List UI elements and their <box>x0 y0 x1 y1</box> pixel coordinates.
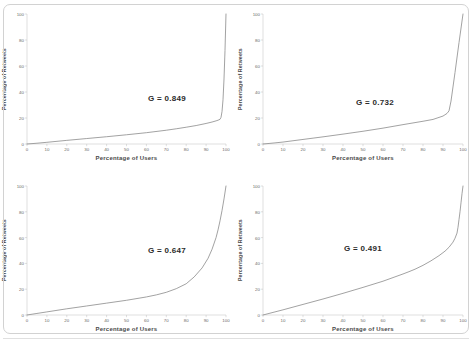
y-tick-label: 80 <box>244 209 260 214</box>
x-tick-label: 10 <box>44 147 49 152</box>
gini-annotation: G = 0.491 <box>344 244 382 253</box>
plot-area-bottom-left <box>0 172 236 343</box>
y-tick-label: 20 <box>244 116 260 121</box>
figure-bottom-rule <box>3 338 469 339</box>
x-tick-label: 70 <box>401 318 406 323</box>
y-axis-label: Percentage of Retweets <box>237 192 243 309</box>
x-tick-label: 100 <box>459 147 466 152</box>
x-tick-label: 90 <box>204 147 209 152</box>
x-axis-label: Percentage of Users <box>27 155 226 161</box>
x-axis-label: Percentage of Users <box>27 326 226 332</box>
x-tick-label: 30 <box>84 147 89 152</box>
x-tick-label: 40 <box>104 318 109 323</box>
gini-annotation: G = 0.647 <box>148 246 186 255</box>
y-tick-label: 40 <box>8 261 24 266</box>
panel-bottom-left: Percentage of Retweets Percentage of Use… <box>0 172 236 343</box>
x-tick-label: 80 <box>421 147 426 152</box>
y-axis-label: Percentage of Retweets <box>1 192 7 309</box>
x-tick-label: 70 <box>164 318 169 323</box>
panel-top-left: Percentage of Retweets Percentage of Use… <box>0 0 236 172</box>
x-tick-label: 10 <box>281 147 286 152</box>
plot-area-top-right <box>236 0 473 172</box>
x-tick-label: 30 <box>321 147 326 152</box>
y-tick-label: 0 <box>8 313 24 318</box>
x-tick-label: 60 <box>144 318 149 323</box>
x-tick-label: 60 <box>144 147 149 152</box>
x-tick-label: 90 <box>441 318 446 323</box>
x-tick-label: 10 <box>44 318 49 323</box>
x-tick-label: 100 <box>222 147 229 152</box>
x-tick-label: 90 <box>204 318 209 323</box>
lorenz-curve-figure: Percentage of Retweets Percentage of Use… <box>0 0 473 343</box>
y-tick-label: 40 <box>244 90 260 95</box>
plot-area-top-left <box>0 0 236 172</box>
y-tick-label: 60 <box>8 64 24 69</box>
x-tick-label: 50 <box>124 147 129 152</box>
x-tick-label: 0 <box>26 147 28 152</box>
x-tick-label: 50 <box>361 318 366 323</box>
y-tick-label: 20 <box>8 116 24 121</box>
x-tick-label: 90 <box>441 147 446 152</box>
panel-bottom-right: Percentage of Retweets Percentage of Use… <box>236 172 473 343</box>
x-tick-label: 40 <box>341 318 346 323</box>
y-tick-label: 40 <box>8 90 24 95</box>
y-tick-label: 100 <box>8 184 24 189</box>
x-axis-label: Percentage of Users <box>263 326 463 332</box>
y-tick-label: 60 <box>8 235 24 240</box>
x-tick-label: 0 <box>262 318 264 323</box>
x-tick-label: 20 <box>64 147 69 152</box>
x-tick-label: 70 <box>164 147 169 152</box>
y-tick-label: 0 <box>244 313 260 318</box>
x-tick-label: 40 <box>104 147 109 152</box>
plot-area-bottom-right <box>236 172 473 343</box>
y-tick-label: 0 <box>244 142 260 147</box>
y-tick-label: 20 <box>244 287 260 292</box>
x-tick-label: 80 <box>421 318 426 323</box>
y-tick-label: 80 <box>8 209 24 214</box>
y-axis-label: Percentage of Retweets <box>1 20 7 138</box>
x-tick-label: 20 <box>301 318 306 323</box>
x-tick-label: 20 <box>301 147 306 152</box>
y-tick-label: 100 <box>244 184 260 189</box>
x-axis-label: Percentage of Users <box>263 155 463 161</box>
y-tick-label: 100 <box>244 12 260 17</box>
x-tick-label: 70 <box>401 147 406 152</box>
x-tick-label: 40 <box>341 147 346 152</box>
y-tick-label: 60 <box>244 64 260 69</box>
x-tick-label: 50 <box>361 147 366 152</box>
y-axis-label: Percentage of Retweets <box>237 20 243 138</box>
panel-top-right: Percentage of Retweets Percentage of Use… <box>236 0 473 172</box>
gini-annotation: G = 0.849 <box>148 94 186 103</box>
x-tick-label: 30 <box>84 318 89 323</box>
x-tick-label: 50 <box>124 318 129 323</box>
x-tick-label: 60 <box>381 318 386 323</box>
x-tick-label: 30 <box>321 318 326 323</box>
y-tick-label: 80 <box>8 38 24 43</box>
x-tick-label: 100 <box>222 318 229 323</box>
x-tick-label: 80 <box>184 147 189 152</box>
y-tick-label: 80 <box>244 38 260 43</box>
x-tick-label: 100 <box>459 318 466 323</box>
x-tick-label: 60 <box>381 147 386 152</box>
gini-annotation: G = 0.732 <box>356 98 394 107</box>
x-tick-label: 0 <box>262 147 264 152</box>
x-tick-label: 10 <box>281 318 286 323</box>
y-tick-label: 0 <box>8 142 24 147</box>
y-tick-label: 100 <box>8 12 24 17</box>
y-tick-label: 60 <box>244 235 260 240</box>
y-tick-label: 20 <box>8 287 24 292</box>
x-tick-label: 80 <box>184 318 189 323</box>
x-tick-label: 0 <box>26 318 28 323</box>
x-tick-label: 20 <box>64 318 69 323</box>
y-tick-label: 40 <box>244 261 260 266</box>
